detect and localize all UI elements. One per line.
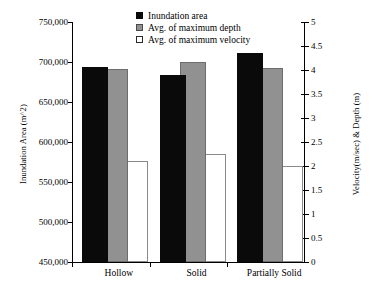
y-tickmark-left-6 [68,22,73,23]
y-tick-left-3: 600,000 [39,137,68,147]
y-tick-left-2: 550,000 [39,177,68,187]
black-square-icon [136,12,143,19]
y-tickmark-right-7 [301,94,309,95]
y-tick-left-0: 450,000 [39,257,68,267]
y-tickmark-right-5 [301,142,309,143]
x-category-label-2: Partially Solid [247,268,302,278]
y-tick-right-0: 0 [311,257,316,267]
y-axis-right-title: Velocity(m/sec) & Depth (m) [351,69,361,219]
y-tickmark-left-3 [68,142,73,143]
x-tickmark-0 [72,262,73,267]
y-tickmark-right-6 [301,118,309,119]
y-axis-right-ticks: 00.511.522.533.544.55 [311,0,351,294]
y-tickmark-right-10 [301,22,309,23]
y-tick-right-9: 4.5 [311,41,322,51]
inundation-bar-chart: Inundation Area (m^2) Velocity(m/sec) & … [0,0,374,294]
y-tick-right-6: 3 [311,113,316,123]
legend-label-0: Inundation area [148,11,207,21]
y-tick-right-5: 2.5 [311,137,322,147]
y-tickmark-left-2 [68,182,73,183]
y-tick-left-1: 500,000 [39,217,68,227]
y-tickmark-left-1 [68,222,73,223]
y-tickmark-left-4 [68,102,73,103]
y-tickmark-right-8 [301,70,309,71]
y-axis-left-ticks: 450,000500,000550,000600,000650,000700,0… [18,0,68,294]
y-tick-right-7: 3.5 [311,89,322,99]
x-category-label-1: Solid [186,268,206,278]
y-tickmark-left-5 [68,62,73,63]
plot-area [72,22,305,262]
y-tick-right-1: 0.5 [311,233,322,243]
legend-item-0: Inundation area [136,10,250,21]
y-tick-right-3: 1.5 [311,185,322,195]
bar-hollow-series-0 [82,67,108,262]
bar-partially-solid-series-0 [237,53,263,262]
bar-solid-series-0 [160,75,186,262]
y-tickmark-right-0 [301,262,309,263]
y-tick-left-5: 700,000 [39,57,68,67]
y-tick-left-4: 650,000 [39,97,68,107]
y-tickmark-right-9 [301,46,309,47]
legend-item-2: Avg. of maximum velocity [136,34,250,45]
legend-label-1: Avg. of maximum depth [148,23,241,33]
legend-label-2: Avg. of maximum velocity [148,35,250,45]
chart-legend: Inundation areaAvg. of maximum depthAvg.… [136,10,250,46]
y-tick-right-10: 5 [311,17,316,27]
x-axis-line [72,262,305,263]
y-tick-right-2: 1 [311,209,316,219]
white-square-icon [136,36,143,43]
x-tickmark-2 [227,262,228,267]
legend-item-1: Avg. of maximum depth [136,22,250,33]
y-tick-left-6: 750,000 [39,17,68,27]
x-category-label-0: Hollow [105,268,134,278]
y-tick-right-4: 2 [311,161,316,171]
y-tick-right-8: 4 [311,65,316,75]
x-tickmark-1 [150,262,151,267]
gray-square-icon [136,24,143,31]
